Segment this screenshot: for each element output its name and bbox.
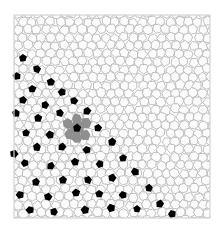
lattice-cell	[95, 151, 106, 161]
lattice-cell	[27, 191, 37, 201]
background-cells	[0, 0, 216, 227]
lattice-cell	[1, 161, 10, 171]
lattice-cell	[212, 207, 216, 217]
lattice-cell	[188, 217, 198, 226]
lattice-cell	[133, 41, 143, 50]
lattice-cell	[9, 0, 19, 10]
lattice-cell	[110, 160, 118, 170]
lattice-cell	[23, 8, 33, 18]
lattice-cell	[63, 80, 72, 90]
lattice-cell	[210, 33, 216, 42]
lattice-cell	[189, 120, 199, 129]
lattice-cell	[4, 183, 13, 192]
lattice-cell	[204, 192, 214, 201]
lattice-cell	[202, 0, 211, 10]
lattice-cell	[0, 176, 9, 186]
lattice-cell	[128, 96, 138, 106]
lattice-cell	[97, 216, 107, 225]
lattice-cell	[68, 216, 78, 226]
lattice-cell	[212, 65, 216, 74]
lattice-cell	[211, 112, 216, 121]
lattice-cell	[138, 143, 148, 154]
lattice-cell	[57, 17, 66, 27]
lattice-cell	[212, 49, 216, 59]
lattice-cell	[5, 136, 14, 147]
lattice-cell	[65, 2, 75, 12]
lattice-cell	[5, 215, 14, 226]
lattice-cell	[24, 121, 33, 131]
lattice-cell	[115, 72, 125, 81]
lattice-cell	[183, 144, 193, 153]
lattice-cell	[59, 153, 69, 162]
lattice-cell	[0, 48, 9, 58]
lattice-cell	[206, 136, 216, 146]
lattice-cell	[1, 81, 10, 90]
lattice-cell	[0, 129, 9, 138]
lattice-cell	[156, 0, 166, 9]
lattice-cell	[167, 144, 176, 154]
lattice-cell	[151, 40, 160, 50]
lattice-cell	[212, 18, 216, 27]
lattice-cell	[77, 24, 87, 35]
lattice-cell	[203, 33, 213, 43]
lattice-cell	[128, 65, 138, 74]
lattice-cell	[125, 8, 134, 18]
lattice-cell	[38, 1, 48, 10]
lattice-cell	[139, 192, 148, 201]
lattice-cell	[110, 1, 119, 10]
lattice-cell	[176, 113, 185, 122]
lattice-cell	[2, 65, 11, 75]
lattice-cell	[185, 1, 194, 11]
lattice-cell	[0, 96, 10, 105]
lattice-cell	[9, 209, 18, 218]
lattice-cell	[174, 0, 184, 9]
lattice-cell	[118, 2, 128, 11]
lattice-cell	[4, 200, 14, 209]
lattice-cell	[68, 9, 77, 18]
lattice-cell	[203, 145, 213, 155]
lattice-cell	[5, 169, 15, 178]
lattice-cell	[138, 2, 148, 12]
lattice-figure	[0, 0, 216, 231]
lattice-cell	[96, 9, 105, 19]
lattice-cell	[195, 33, 205, 41]
lattice-cell	[59, 216, 69, 225]
lattice-cell	[165, 48, 175, 57]
lattice-cell	[1, 146, 10, 155]
lattice-cell	[1, 193, 11, 203]
lattice-cell	[4, 40, 13, 50]
lattice-cell	[4, 26, 14, 35]
lattice-cell	[192, 97, 202, 107]
lattice-cell	[46, 33, 56, 42]
lattice-cell	[157, 176, 166, 186]
lattice-cell	[5, 57, 14, 67]
lattice-cell	[142, 200, 152, 209]
lattice-cell	[129, 0, 138, 9]
lattice-cell	[33, 73, 43, 83]
lattice-cell	[55, 1, 65, 10]
lattice-cell	[42, 56, 52, 65]
lattice-cell	[119, 176, 129, 185]
lattice-cell	[27, 2, 36, 12]
lattice-cell	[24, 73, 34, 81]
lattice-cell	[5, 122, 14, 131]
lattice-cell	[148, 2, 159, 12]
lattice-cell	[74, 2, 83, 11]
lattice-cell	[41, 216, 50, 226]
lattice-cell	[137, 113, 147, 122]
lattice-cell	[212, 162, 216, 171]
lattice-cell	[210, 193, 216, 202]
lattice-cell	[207, 89, 216, 98]
lattice-cell	[5, 72, 15, 82]
lattice-cell	[211, 144, 216, 155]
lattice-cell	[60, 8, 69, 18]
lattice-cell	[0, 1, 9, 11]
lattice-cell	[88, 9, 97, 19]
lattice-cell	[15, 120, 24, 129]
lattice-cell	[61, 199, 71, 210]
lattice-cell	[31, 25, 41, 34]
lattice-cell	[114, 200, 124, 209]
lattice-cell	[193, 1, 204, 10]
lattice-cell	[93, 2, 103, 11]
lattice-cell	[51, 56, 61, 65]
